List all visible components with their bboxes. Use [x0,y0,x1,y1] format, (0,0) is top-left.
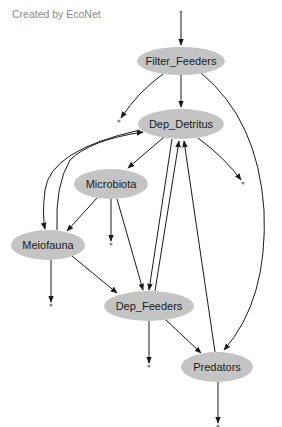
edge-microbiota-meiofauna [67,198,97,231]
terminal-dot-input [179,10,182,13]
edge-microbiota-dep-feeders [117,199,143,290]
node-dep-detritus-label: Dep_Detritus [149,118,214,130]
node-dep-feeders[interactable]: Dep_Feeders [104,291,194,321]
terminal-dot-meiofauna-out [49,303,52,306]
node-predators-label: Predators [193,361,241,373]
edge-dep-detritus-dep-feeders [149,139,172,290]
node-predators[interactable]: Predators [181,352,253,382]
node-dep-detritus[interactable]: Dep_Detritus [138,109,224,139]
node-dep-feeders-label: Dep_Feeders [116,300,183,312]
edge-dep-feeders-dep-detritus [155,141,179,291]
edge-filter-feeders-output [121,74,163,118]
terminal-dot-microbiota-out [109,242,112,245]
edge-dep-detritus-microbiota [128,137,164,168]
terminal-dot-dep-detritus-out [241,181,244,184]
node-meiofauna[interactable]: Meiofauna [11,230,85,260]
edge-meiofauna-dep-feeders [72,256,117,293]
terminal-dot-filter-feeders-out [117,119,120,122]
edge-dep-feeders-predators [166,320,201,353]
terminal-dot-dep-feeders-out [147,364,150,367]
node-microbiota[interactable]: Microbiota [74,169,148,199]
node-filter-feeders[interactable]: Filter_Feeders [137,47,225,75]
edge-dep-detritus-output [198,138,241,180]
node-meiofauna-label: Meiofauna [22,239,74,251]
node-filter-feeders-label: Filter_Feeders [146,55,217,67]
edge-predators-dep-detritus [184,141,215,352]
nodes: Filter_Feeders Dep_Detritus Microbiota M… [11,47,253,382]
node-microbiota-label: Microbiota [86,178,138,190]
flow-network-diagram: Filter_Feeders Dep_Detritus Microbiota M… [0,0,282,427]
